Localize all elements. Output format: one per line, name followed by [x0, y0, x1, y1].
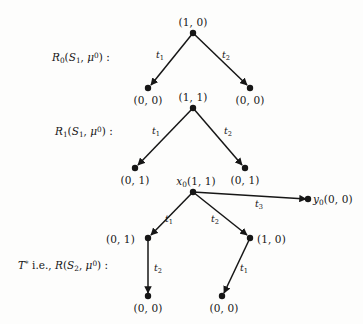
edge-t0-right [193, 33, 247, 85]
tree-nodes [132, 30, 311, 299]
tree-row-label-R1-colon: : [109, 125, 113, 137]
node-label-t2-far-right-pair: (0, 0) [324, 193, 353, 205]
tree-edges-canvas [0, 0, 363, 324]
tree-row-label-R0: R0(S1, μ0) : [52, 52, 110, 64]
tree-row-label-Tstar-sup: * [25, 259, 29, 268]
edge-label-t2-far-right-sub: 3 [259, 203, 263, 211]
edge-t1-right [193, 108, 242, 165]
node-t2-right [247, 235, 253, 241]
tree-row-label-R0-arg1: S [69, 51, 76, 63]
edge-label-t2-left: t1 [165, 214, 173, 225]
tree-row-label-R1-close: ) [102, 125, 106, 137]
edge-label-t1-right-sub: 2 [228, 130, 232, 138]
edge-label-t0-left-sub: 1 [160, 54, 164, 62]
tree-row-label-R1-comma: , [84, 125, 87, 137]
edge-label-t2-left-sub: 1 [169, 218, 173, 226]
edge-label-t2-right: t2 [211, 214, 219, 225]
node-label-t2-left: (0, 1) [106, 234, 135, 245]
tree-row-label-R0-name: R [52, 51, 60, 63]
node-label-t1-root: (1, 1) [179, 92, 208, 103]
edge-label-t2-far-right: t3 [255, 199, 263, 210]
node-label-t0-root: (1, 0) [179, 17, 208, 28]
edge-label-t0-left: t1 [156, 50, 164, 61]
edge-label-t0-right: t2 [222, 50, 230, 61]
node-t2-left-leaf [145, 293, 151, 299]
edge-label-t1-left-sub: 1 [156, 130, 160, 138]
tree-row-label-Tstar-close: ) [97, 259, 101, 271]
edge-label-t2-right-sub: 2 [215, 218, 219, 226]
tree-row-label-R0-close: ) [99, 51, 103, 63]
node-t2-far-right [305, 196, 311, 202]
edge-label-t0-right-sub: 2 [226, 54, 230, 62]
node-t1-left [132, 165, 138, 171]
node-label-t2-root: x0(1, 1) [176, 176, 216, 188]
tree-row-label-R1: R1(S1, μ0) : [55, 126, 113, 138]
tree-row-label-Tstar-comma: , [79, 259, 82, 271]
node-label-t2-right: (1, 0) [257, 234, 286, 245]
node-t2-root [190, 189, 196, 195]
tree-row-label-R0-comma: , [81, 51, 84, 63]
node-label-t0-left: (0, 0) [134, 95, 163, 106]
tree-row-label-Tstar-colon: : [105, 259, 109, 271]
node-t0-left [145, 85, 151, 91]
edge-label-t1-left: t1 [152, 126, 160, 137]
edge-t2-far-right [193, 192, 306, 199]
node-label-t0-right: (0, 0) [236, 95, 265, 106]
node-label-t2-left-leaf: (0, 0) [134, 303, 163, 314]
tree-row-label-Tstar-ie: i.e., [32, 259, 52, 271]
game-tree-figure: R0(S1, μ0) : (1, 0) (0, 0) (0, 0) t1 t2 … [0, 0, 363, 324]
tree-row-label-Tstar-name: T [18, 259, 25, 271]
node-t0-right [247, 85, 253, 91]
tree-row-label-Tstar-R: R [55, 259, 63, 271]
tree-row-label-R1-name: R [55, 125, 63, 137]
node-label-t2-right-leaf: (0, 0) [210, 303, 239, 314]
node-t2-left [145, 235, 151, 241]
node-label-t1-right: (0, 1) [231, 175, 260, 186]
edge-t1-left [138, 108, 193, 165]
tree-row-label-R1-arg1: S [72, 125, 79, 137]
edge-label-t2-left-leaf: t2 [154, 263, 162, 274]
node-label-t2-root-pair: (1, 1) [187, 175, 216, 187]
node-t1-right [242, 165, 248, 171]
node-t0-root [190, 30, 196, 36]
node-label-t1-left: (0, 1) [121, 175, 150, 186]
tree-0-edges [151, 33, 247, 85]
tree-row-label-R0-colon: : [106, 51, 110, 63]
edge-label-t2-right-leaf: t1 [240, 263, 248, 274]
node-label-t2-far-right: y0(0, 0) [313, 194, 353, 206]
node-t1-root [190, 105, 196, 111]
node-t2-right-leaf [219, 293, 225, 299]
edge-label-t2-right-leaf-sub: 1 [244, 267, 248, 275]
tree-row-label-Tstar: T* i.e., R(S2, μ0) : [18, 260, 108, 272]
edge-t2-right [193, 192, 247, 235]
edge-label-t1-right: t2 [224, 126, 232, 137]
edge-label-t2-left-leaf-sub: 2 [158, 267, 162, 275]
